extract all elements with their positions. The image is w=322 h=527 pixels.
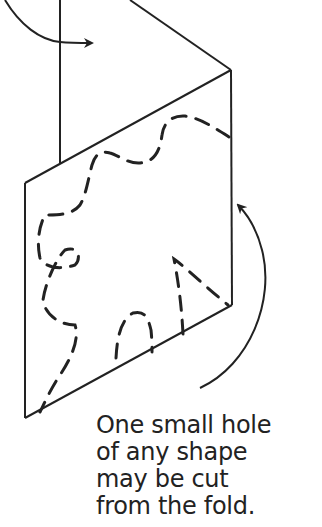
caption-line-1: One small hole (96, 412, 271, 439)
caption-line-4: from the fold. (96, 493, 271, 520)
caption-line-3: may be cut (96, 466, 271, 493)
fold-arrow-top-icon (5, 0, 92, 43)
upper-panel (25, 0, 231, 183)
caption: One small hole of any shape may be cut f… (96, 412, 271, 520)
caption-line-2: of any shape (96, 439, 271, 466)
